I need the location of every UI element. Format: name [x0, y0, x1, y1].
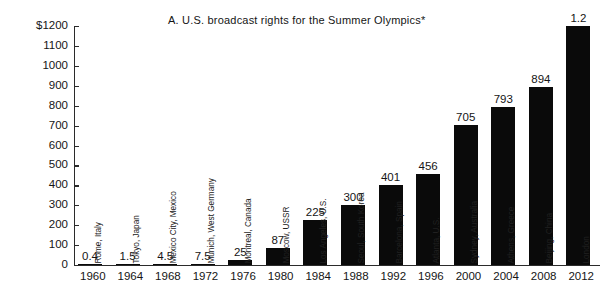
bar [78, 264, 102, 265]
bar-group: 401Barcelona, Spain [379, 26, 417, 265]
bar-city-label: Seoul, South Korea [358, 192, 367, 263]
bar [191, 264, 215, 265]
x-axis-tick-label: 1960 [74, 270, 112, 283]
bar-value-label: 456 [416, 160, 440, 172]
bar-city-label: Rome, Italy [95, 222, 104, 263]
bar-value-label: 705 [454, 111, 478, 123]
y-axis-tick-label: 100 [49, 239, 68, 251]
plot-area: 0.4Rome, Italy1.5Tokyo, Japan4.5Mexico C… [74, 26, 600, 265]
y-axis-tick-label: $1200 [36, 20, 68, 32]
bar-group: 7.5Munich, West Germany [191, 26, 229, 265]
y-axis-tick-label: 700 [49, 120, 68, 132]
y-axis-tick-label: 0 [62, 259, 68, 271]
y-axis-tick-label: 1000 [42, 60, 68, 72]
bar-city-label: Montreal, Canada [245, 198, 254, 263]
bar-group: 4.5Mexico City, Mexico [153, 26, 191, 265]
bar-city-label: London [583, 236, 592, 263]
bar-group: 1.5Tokyo, Japan [116, 26, 154, 265]
bar-city-label: Munich, West Germany [207, 178, 216, 263]
bar-group: 225Los Angeles, U.S. [303, 26, 341, 265]
y-axis-tick-label: 200 [49, 219, 68, 231]
bar-group: 300Seoul, South Korea [341, 26, 379, 265]
bar-city-label: Sydney, Australia [470, 200, 479, 263]
y-axis-tick [74, 265, 79, 266]
y-axis-tick-labels: 010020030040050060070080090010001100$120… [0, 26, 68, 266]
bar-city-label: Athens, Greece [508, 206, 517, 263]
x-axis-tick-label: 2008 [525, 270, 563, 283]
x-axis-tick-label: 1984 [299, 270, 337, 283]
bar-city-label: Los Angeles, U.S. [320, 198, 329, 263]
bar-city-label: Mexico City, Mexico [170, 191, 179, 263]
x-axis-tick-label: 1992 [375, 270, 413, 283]
bar-city-label: Moscow, USSR [282, 206, 291, 263]
x-axis-tick-label: 1996 [412, 270, 450, 283]
bar [153, 264, 177, 265]
bar-city-label: Atlanta, U.S. [433, 217, 442, 263]
y-axis-tick-label: 600 [49, 140, 68, 152]
x-axis-tick-label: 1972 [187, 270, 225, 283]
y-axis-tick-label: 300 [49, 199, 68, 211]
bar [116, 264, 140, 265]
x-axis-tick-label: 2000 [450, 270, 488, 283]
bar-group: 456Atlanta, U.S. [416, 26, 454, 265]
bar-group: 1.2London [566, 26, 604, 265]
x-axis-tick-label: 1976 [224, 270, 262, 283]
x-axis-tick-label: 1988 [337, 270, 375, 283]
bar-value-label: 894 [529, 73, 553, 85]
bar-group: 87Moscow, USSR [266, 26, 304, 265]
chart-title: A. U.S. broadcast rights for the Summer … [168, 14, 425, 26]
bar-city-label: Tokyo, Japan [132, 215, 141, 263]
chart-figure: A. U.S. broadcast rights for the Summer … [0, 0, 614, 295]
bar-city-label: Beijing, China [545, 212, 554, 263]
bar-value-label: 1.2 [566, 12, 590, 24]
bar-group: 705Sydney, Australia [454, 26, 492, 265]
bar-value-label: 401 [379, 171, 403, 183]
x-axis-tick-label: 1968 [149, 270, 187, 283]
x-axis-tick-label: 1964 [112, 270, 150, 283]
x-axis-tick-labels: 1960196419681972197619801984198819921996… [74, 270, 600, 290]
bar-group: 25Montreal, Canada [228, 26, 266, 265]
y-axis-tick-label: 800 [49, 100, 68, 112]
x-axis-tick-label: 1980 [262, 270, 300, 283]
bar-value-label: 793 [491, 93, 515, 105]
bar [566, 26, 590, 265]
x-axis-line [74, 265, 600, 266]
y-axis-tick-label: 900 [49, 80, 68, 92]
x-axis-tick-label: 2004 [487, 270, 525, 283]
y-axis-tick-label: 1100 [43, 40, 68, 52]
bar-group: 793Athens, Greece [491, 26, 529, 265]
bar-group: 0.4Rome, Italy [78, 26, 116, 265]
bar-group: 894Beijing, China [529, 26, 567, 265]
bar-city-label: Barcelona, Spain [395, 201, 404, 263]
x-axis-tick-label: 2012 [562, 270, 600, 283]
y-axis-tick-label: 400 [49, 179, 68, 191]
y-axis-tick-label: 500 [49, 159, 68, 171]
